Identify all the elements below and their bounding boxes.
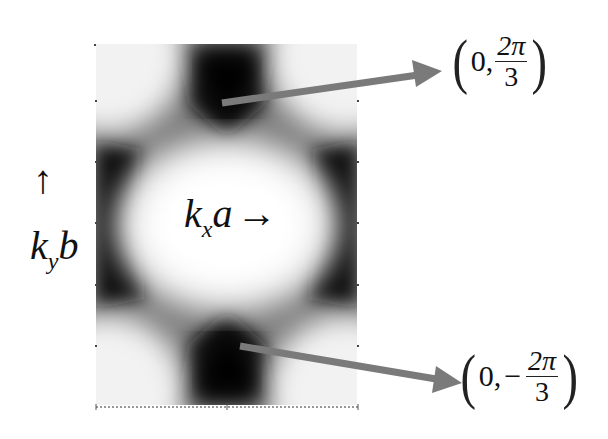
coord-first: 0, xyxy=(471,44,494,78)
ky-k: k xyxy=(30,223,48,268)
fraction-numerator: 2π xyxy=(495,31,527,61)
fraction: 2π 3 xyxy=(526,346,558,406)
open-paren: ( xyxy=(461,345,476,407)
kx-subscript: x xyxy=(202,216,213,242)
fraction-denominator: 3 xyxy=(535,377,549,406)
fraction-denominator: 3 xyxy=(504,62,518,91)
kx-k: k xyxy=(184,191,202,236)
close-paren: ) xyxy=(563,345,578,407)
arrow-to-bottom-point xyxy=(240,346,448,381)
ky-var: b xyxy=(58,223,78,268)
kx-arrow-icon: → xyxy=(236,191,276,236)
close-paren: ) xyxy=(532,30,547,92)
kx-label: kxa→ xyxy=(184,194,276,234)
coord-first: 0, xyxy=(479,359,502,393)
open-paren: ( xyxy=(453,30,468,92)
ky-arrow-icon: ↑ xyxy=(33,160,53,200)
kx-var: a xyxy=(212,191,232,236)
fraction-numerator: 2π xyxy=(526,346,558,376)
arrow-to-top-point xyxy=(222,73,432,103)
ky-subscript: y xyxy=(48,248,59,274)
ky-label: kyb xyxy=(30,226,78,266)
fraction: 2π 3 xyxy=(495,31,527,91)
coordinate-top: ( 0, 2π 3 ) xyxy=(450,30,550,92)
coordinate-bottom: ( 0, − 2π 3 ) xyxy=(458,345,581,407)
arrowhead-top-icon xyxy=(412,60,442,87)
coord-sign: − xyxy=(504,359,521,393)
